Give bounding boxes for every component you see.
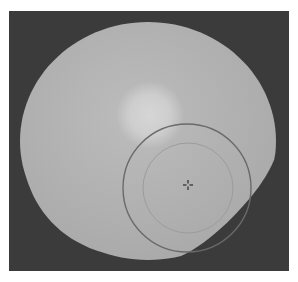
bright-spot: [116, 81, 184, 149]
fluoroscopy-image: [0, 0, 298, 282]
image-viewer: [0, 0, 298, 282]
